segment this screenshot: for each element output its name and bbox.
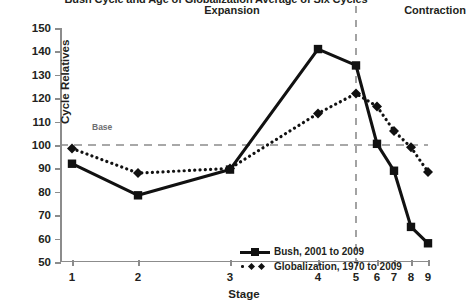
y-tick-label-120: 120 (32, 92, 51, 104)
y-tick-label-60: 60 (38, 233, 51, 245)
phase-label-expansion: Expansion (204, 4, 260, 16)
legend-item-bush: Bush, 2001 to 2009 (238, 244, 402, 259)
y-tick (55, 262, 61, 264)
y-tick-label-140: 140 (32, 45, 51, 57)
x-tick-label-8: 8 (408, 271, 414, 283)
y-tick-label-80: 80 (38, 186, 51, 198)
x-axis-title: Stage (60, 288, 428, 300)
data-point-marker (373, 140, 381, 148)
y-tick-label-110: 110 (32, 116, 51, 128)
x-tick-label-9: 9 (425, 271, 431, 283)
data-point-marker (351, 89, 361, 99)
data-point-marker (313, 108, 323, 118)
data-point-marker (407, 223, 415, 231)
data-point-marker (134, 191, 142, 199)
data-point-marker (314, 45, 322, 53)
y-tick-label-50: 50 (38, 256, 51, 268)
legend-swatch-solid-square-icon (238, 246, 272, 258)
series-layer (60, 28, 428, 262)
data-point-marker (389, 126, 399, 136)
y-tick-label-90: 90 (38, 162, 51, 174)
data-point-marker (424, 239, 432, 247)
x-tick-label-1: 1 (69, 271, 75, 283)
x-tick-label-3: 3 (227, 271, 233, 283)
legend-label-globalization: Globalization, 1970 to 2009 (274, 259, 402, 274)
phase-label-contraction: Contraction (404, 4, 466, 16)
x-tick-label-2: 2 (135, 271, 141, 283)
chart-legend: Bush, 2001 to 2009 Globalization, 1970 t… (238, 244, 402, 274)
y-tick-label-100: 100 (32, 139, 51, 151)
legend-label-bush: Bush, 2001 to 2009 (274, 244, 364, 259)
legend-item-globalization: Globalization, 1970 to 2009 (238, 259, 402, 274)
data-point-marker (133, 168, 143, 178)
data-point-marker (352, 61, 360, 69)
plot-area: Cycle Relatives Stage 506070809010011012… (60, 28, 428, 262)
x-tick (428, 260, 430, 266)
y-tick-label-130: 130 (32, 69, 51, 81)
data-point-marker (68, 160, 76, 168)
data-point-marker (390, 167, 398, 175)
y-tick-label-150: 150 (32, 22, 51, 34)
legend-swatch-dotted-diamond-icon (238, 261, 272, 273)
y-tick-label-70: 70 (38, 209, 51, 221)
